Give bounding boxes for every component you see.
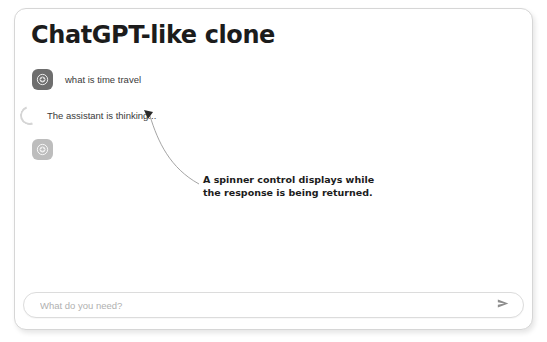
composer-bar: [23, 292, 524, 318]
chat-transcript: what is time travel The assistant is thi…: [15, 61, 532, 275]
page-title: ChatGPT-like clone: [31, 21, 275, 49]
user-avatar-icon: [32, 69, 53, 90]
chat-input[interactable]: [38, 299, 491, 312]
send-button[interactable]: [491, 293, 517, 317]
chat-message-assistant: [32, 139, 65, 160]
send-arrow-icon: [497, 297, 512, 313]
chat-message-text: what is time travel: [65, 74, 141, 85]
assistant-thinking-status: The assistant is thinking...: [20, 106, 156, 125]
assistant-avatar-icon: [32, 139, 53, 160]
chat-message-user: what is time travel: [32, 69, 141, 90]
annotation-text: A spinner control displays while the res…: [203, 174, 374, 199]
annotation-line-2: the response is being returned.: [203, 187, 374, 200]
loading-spinner-icon: [17, 103, 42, 128]
status-text: The assistant is thinking...: [47, 110, 156, 121]
annotation-line-1: A spinner control displays while: [203, 174, 374, 187]
app-card: ChatGPT-like clone what is time travel T…: [14, 8, 533, 330]
